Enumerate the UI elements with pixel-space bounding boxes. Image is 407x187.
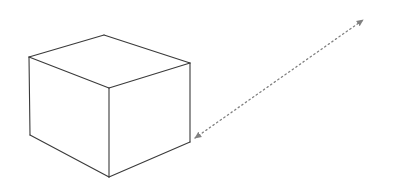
cube-edge-top-front-right [109,63,190,88]
cube-edge-top-back-left [29,35,104,57]
double-headed-dotted-arrow [195,20,363,138]
diagram-canvas [0,0,407,187]
cube-wireframe [29,35,190,177]
cube-edge-bottom-left [30,135,109,177]
cube-edge-bottom-right [109,142,190,177]
cube-edge-top-front-left [29,57,109,88]
cube-edge-left-vertical [29,57,30,135]
cube-edge-top-back-right [104,35,190,63]
